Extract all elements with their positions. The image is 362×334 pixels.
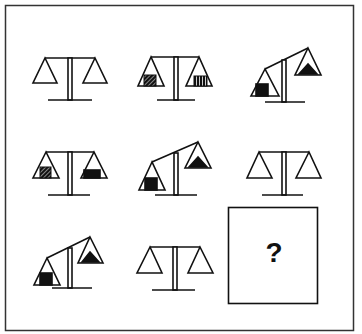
striped-block — [194, 76, 207, 86]
scale-post — [282, 60, 286, 102]
scale-post — [68, 152, 72, 195]
scale-post — [173, 247, 177, 290]
scale-post — [174, 57, 178, 100]
scale-post — [68, 248, 72, 288]
answer-box[interactable]: ? — [229, 208, 318, 304]
question-mark: ? — [265, 237, 282, 268]
scale-post — [282, 152, 286, 195]
puzzle-canvas: ? — [0, 0, 362, 334]
solid-block — [40, 273, 52, 285]
hatched-block — [40, 167, 51, 178]
hatched-block — [144, 75, 156, 86]
solid-block — [256, 84, 268, 96]
scale-post — [174, 153, 178, 195]
scale-post — [68, 58, 72, 100]
solid-block — [145, 178, 157, 190]
solid-block — [84, 170, 100, 178]
